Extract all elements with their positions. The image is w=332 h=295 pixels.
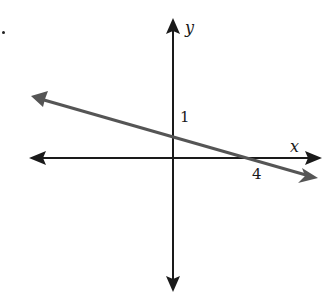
x-axis (29, 151, 322, 165)
y-intercept-label: 1 (180, 110, 190, 125)
x-intercept-label: 4 (252, 167, 262, 182)
y-axis (166, 18, 180, 292)
coordinate-diagram: y x 1 4 (0, 0, 332, 295)
graphed-line (31, 91, 318, 183)
x-axis-label: x (290, 139, 299, 155)
y-axis-label: y (185, 20, 194, 36)
line-right-arrow-icon (298, 168, 318, 183)
